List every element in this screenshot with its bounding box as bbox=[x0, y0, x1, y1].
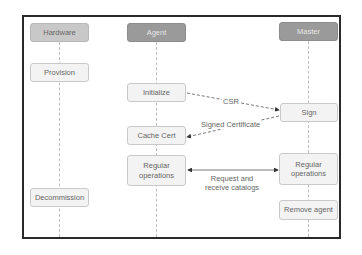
csr-label: CSR bbox=[222, 97, 240, 106]
catalogs-label-line2: receive catalogs bbox=[200, 183, 264, 192]
signed-certificate-label: Signed Certificate bbox=[200, 120, 261, 129]
message-arrows bbox=[0, 0, 362, 255]
catalogs-label-line1: Request and bbox=[200, 174, 264, 183]
catalogs-label: Request and receive catalogs bbox=[200, 174, 264, 193]
